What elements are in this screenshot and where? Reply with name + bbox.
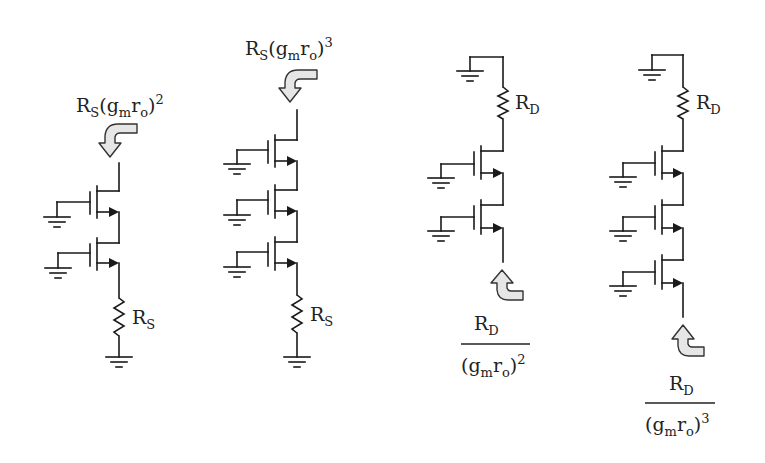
nmos-transistor — [224, 237, 297, 295]
resistor-label-c3: RD — [515, 91, 540, 117]
svg-text:(gmro)3: (gmro)3 — [645, 411, 710, 439]
circuit-1: RS(gmro)2 — [44, 92, 164, 367]
svg-text:RD: RD — [474, 312, 499, 338]
nmos-transistor — [610, 255, 683, 317]
nmos-transistor — [224, 185, 297, 242]
bent-arrow-down-icon — [279, 70, 317, 102]
impedance-label-c1: RS(gmro)2 — [76, 92, 164, 120]
impedance-label-c4: RD (gmro)3 — [645, 372, 715, 439]
resistor-rs — [114, 298, 124, 336]
circuit-3: RD — [428, 57, 540, 380]
bent-arrow-up-icon — [672, 325, 704, 356]
impedance-label-c2: RS(gmro)3 — [245, 35, 333, 63]
nmos-transistor — [224, 135, 297, 190]
cascode-impedance-diagram: RS(gmro)2 — [0, 0, 765, 463]
nmos-transistor — [610, 146, 683, 205]
bent-arrow-up-icon — [491, 270, 523, 300]
circuit-4: RD — [610, 55, 721, 439]
resistor-rd — [678, 87, 688, 119]
nmos-transistor — [44, 186, 119, 243]
resistor-label-c2: RS — [310, 303, 333, 329]
nmos-transistor — [610, 200, 683, 260]
svg-text:RD: RD — [669, 372, 694, 398]
resistor-label-c4: RD — [696, 91, 721, 117]
resistor-rs — [292, 295, 302, 333]
resistor-rd — [498, 87, 508, 119]
nmos-transistor — [428, 200, 503, 262]
bent-arrow-down-icon — [99, 124, 137, 157]
impedance-label-c3: RD (gmro)2 — [461, 312, 530, 380]
svg-text:(gmro)2: (gmro)2 — [461, 352, 526, 380]
resistor-label-c1: RS — [132, 306, 155, 332]
nmos-transistor — [428, 146, 503, 205]
nmos-transistor — [45, 238, 119, 298]
circuit-2: RS(gmro)3 — [224, 35, 333, 367]
